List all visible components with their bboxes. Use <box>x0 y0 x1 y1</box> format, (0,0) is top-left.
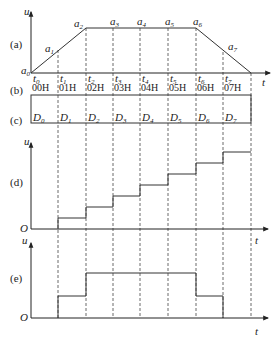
svg-text:D6: D6 <box>197 111 210 125</box>
svg-text:05H: 05H <box>169 82 186 93</box>
svg-text:02H: 02H <box>87 82 104 93</box>
svg-text:D0: D0 <box>32 111 45 125</box>
svg-text:a3: a3 <box>110 15 120 29</box>
svg-text:u: u <box>24 5 30 17</box>
svg-text:a7: a7 <box>228 40 238 54</box>
e-stepped-trapezoid <box>58 273 223 318</box>
d-staircase <box>58 152 251 229</box>
panel-d: u (d) O t <box>10 135 268 246</box>
svg-text:04H: 04H <box>141 82 158 93</box>
svg-text:a0: a0 <box>21 64 31 78</box>
svg-text:a5: a5 <box>165 15 175 29</box>
svg-text:06H: 06H <box>197 82 214 93</box>
svg-text:(b): (b) <box>10 84 23 97</box>
panel-e: u (e) O t <box>10 234 268 337</box>
svg-text:01H: 01H <box>59 82 76 93</box>
a-trapezoid <box>31 28 251 73</box>
svg-text:03H: 03H <box>114 82 131 93</box>
svg-text:D1: D1 <box>59 111 71 125</box>
svg-text:a1: a1 <box>45 42 54 56</box>
svg-text:O: O <box>20 222 28 234</box>
svg-text:D3: D3 <box>114 111 127 125</box>
svg-text:u: u <box>22 234 28 246</box>
svg-text:O: O <box>20 311 28 323</box>
svg-text:t: t <box>262 76 266 88</box>
svg-text:00H: 00H <box>32 82 49 93</box>
svg-text:D2: D2 <box>87 111 100 125</box>
svg-text:u: u <box>24 135 30 147</box>
svg-text:07H: 07H <box>224 82 241 93</box>
svg-text:D4: D4 <box>141 111 154 125</box>
svg-text:(e): (e) <box>10 272 23 285</box>
panel-c: (c) D0 D1 D2 D3 D4 D5 D6 D7 <box>10 95 251 127</box>
svg-text:D5: D5 <box>169 111 182 125</box>
svg-text:t: t <box>255 234 259 246</box>
time-guide-lines <box>58 28 251 318</box>
svg-text:(c): (c) <box>10 114 23 127</box>
svg-text:a2: a2 <box>74 17 84 31</box>
svg-text:(a): (a) <box>10 38 23 51</box>
svg-text:a4: a4 <box>137 15 147 29</box>
svg-text:D7: D7 <box>224 111 237 125</box>
svg-text:(d): (d) <box>10 176 23 189</box>
timing-diagram: u t (a) a0 a1 a2 a3 a4 a5 a6 a7 t0 t1 t2… <box>0 0 278 343</box>
svg-text:t: t <box>255 325 259 337</box>
svg-text:a6: a6 <box>193 15 203 29</box>
